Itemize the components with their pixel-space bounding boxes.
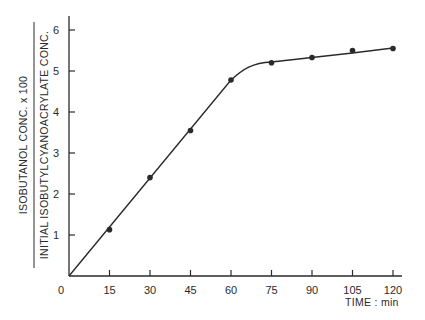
data-point — [390, 46, 396, 52]
x-tick-label: 105 — [343, 284, 361, 296]
data-point — [147, 175, 153, 181]
x-tick-label: 45 — [184, 284, 196, 296]
y-tick-label: 1 — [53, 229, 59, 241]
data-point — [269, 60, 275, 66]
data-points — [107, 46, 396, 233]
x-tick-label: 30 — [144, 284, 156, 296]
y-tick-label: 3 — [53, 147, 59, 159]
axes — [69, 16, 402, 276]
x-tick-label: 15 — [103, 284, 115, 296]
data-point — [228, 77, 234, 83]
y-tick-label: 4 — [53, 106, 59, 118]
x-axis-title: TIME : min — [345, 296, 399, 308]
x-tick-label: 90 — [306, 284, 318, 296]
data-point — [107, 227, 113, 233]
x-axis-ticks: 153045607590105120 — [103, 270, 402, 296]
y-axis-title: ISOBUTANOL CONC. x 100 INITIAL ISOBUTYLC… — [17, 22, 50, 268]
data-point — [188, 128, 194, 134]
y-tick-label: 2 — [53, 188, 59, 200]
data-point — [350, 48, 356, 54]
origin-label: 0 — [58, 284, 64, 296]
y-tick-label: 6 — [53, 24, 59, 36]
chart: 153045607590105120 123456 0 TIME : min I… — [0, 0, 425, 320]
y-axis-title-denominator: INITIAL ISOBUTYLCYANOACRYLATE CONC. — [38, 31, 50, 259]
y-tick-label: 5 — [53, 65, 59, 77]
data-point — [309, 55, 315, 61]
x-tick-label: 60 — [225, 284, 237, 296]
y-axis-ticks: 123456 — [53, 24, 75, 241]
x-tick-label: 75 — [265, 284, 277, 296]
x-tick-label: 120 — [384, 284, 402, 296]
y-axis-title-numerator: ISOBUTANOL CONC. x 100 — [17, 76, 29, 214]
